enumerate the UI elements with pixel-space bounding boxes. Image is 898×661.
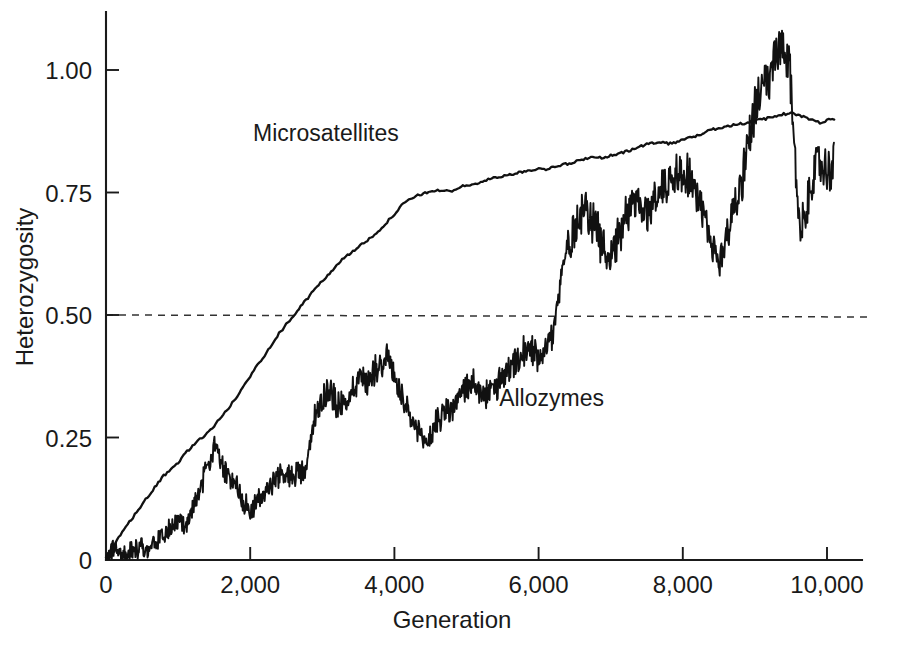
y-tick-label: 0.50 — [45, 302, 92, 329]
y-tick-label: 0 — [79, 547, 92, 574]
chart-background — [0, 0, 898, 661]
y-tick-label: 0.75 — [45, 180, 92, 207]
chart-figure: 00.250.500.751.00 02,0004,0006,0008,0001… — [0, 0, 898, 661]
x-tick-label: 2,000 — [220, 571, 280, 598]
y-tick-label: 1.00 — [45, 57, 92, 84]
y-axis-title: Heterozygosity — [11, 208, 38, 367]
heterozygosity-line-chart: 00.250.500.751.00 02,0004,0006,0008,0001… — [0, 0, 898, 661]
series-label-allozymes: Allozymes — [499, 385, 604, 411]
x-tick-label: 8,000 — [653, 571, 713, 598]
x-tick-label: 4,000 — [364, 571, 424, 598]
x-tick-label: 0 — [99, 571, 112, 598]
x-axis-title: Generation — [393, 606, 512, 633]
x-tick-label: 10,000 — [790, 571, 863, 598]
series-label-microsatellites: Microsatellites — [253, 120, 399, 146]
x-tick-label: 6,000 — [509, 571, 569, 598]
y-tick-label: 0.25 — [45, 425, 92, 452]
